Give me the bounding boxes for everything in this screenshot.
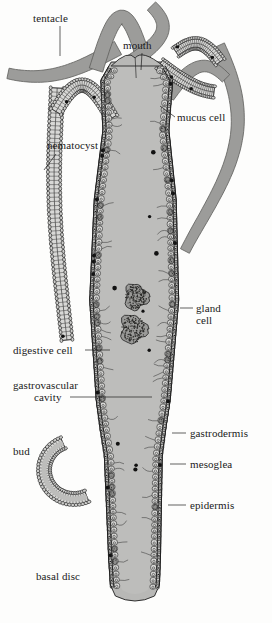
- cavity-particle: [112, 286, 117, 291]
- cavity-particle: [134, 463, 138, 467]
- cavity-particle: [151, 150, 156, 155]
- label-epidermis: epidermis: [190, 500, 234, 512]
- label-tentacle: tentacle: [33, 13, 68, 25]
- label-mucus-cell: mucus cell: [177, 112, 225, 124]
- cavity-particle: [154, 251, 159, 256]
- label-digestive-cell: digestive cell: [13, 345, 73, 357]
- hydra-diagram-svg: [0, 0, 272, 623]
- tentacle-left-cellular: [46, 86, 74, 343]
- cavity-particle: [141, 310, 144, 313]
- label-nematocyst: nematocyst: [47, 140, 98, 152]
- hydra-anatomy-figure: tentaclemouthmucus cellnematocystglandce…: [0, 0, 272, 623]
- label-mesoglea: mesoglea: [190, 459, 232, 471]
- cavity-particle: [133, 467, 137, 471]
- label-bud: bud: [13, 446, 30, 458]
- label-gastrovascular-l2: cavity: [34, 392, 61, 404]
- label-gland-cell-line2: cell: [196, 315, 212, 327]
- label-gland-cell-line1: gland: [196, 303, 221, 315]
- label-basal-disc: basal disc: [36, 571, 80, 583]
- cavity-particle: [116, 442, 120, 446]
- cavity-particle: [148, 215, 151, 218]
- label-mouth: mouth: [123, 40, 152, 52]
- bud-structure: [36, 435, 91, 506]
- label-gastrovascular-l1: gastrovascular: [13, 380, 78, 392]
- cavity-particle: [148, 349, 151, 352]
- label-gastrodermis: gastrodermis: [190, 428, 248, 440]
